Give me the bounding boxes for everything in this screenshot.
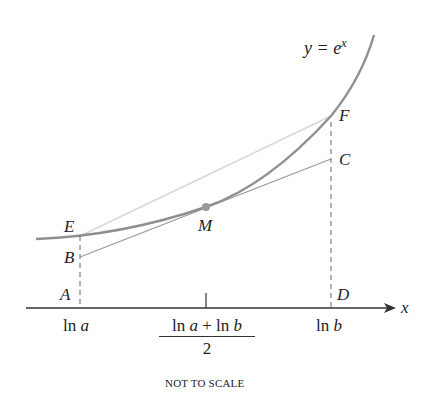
point-label-f: F <box>339 107 349 124</box>
tick-label-ln-b: ln b <box>316 317 342 334</box>
point-label-b: B <box>64 249 74 266</box>
point-label-e: E <box>64 218 74 235</box>
midpoint-denominator: 2 <box>159 337 255 357</box>
not-to-scale-note: NOT TO SCALE <box>165 377 244 389</box>
tick-label-midpoint: ln a + ln b 2 <box>159 317 255 357</box>
point-label-m: M <box>198 217 212 234</box>
tick-label-ln-a: ln a <box>63 317 89 334</box>
point-label-a: A <box>60 286 70 303</box>
axis-label-x: x <box>401 299 409 316</box>
point-label-d: D <box>337 286 349 303</box>
midpoint-numerator: ln a + ln b <box>159 317 255 337</box>
point-m-dot <box>202 203 210 211</box>
point-label-c: C <box>339 151 350 168</box>
curve-label: y = ex <box>304 37 346 57</box>
